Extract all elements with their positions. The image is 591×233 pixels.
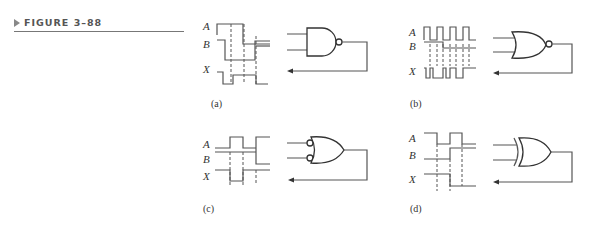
waveform-a bbox=[215, 137, 256, 152]
signal-label-b: B bbox=[203, 38, 210, 50]
xor-input-curve bbox=[514, 138, 518, 166]
signal-label-x: X bbox=[202, 170, 211, 182]
signal-label-a: A bbox=[408, 132, 416, 144]
caption-a: (a) bbox=[211, 98, 222, 110]
xor-gate-icon bbox=[519, 138, 551, 166]
caption-d: (d) bbox=[410, 203, 422, 215]
caption-b: (b) bbox=[410, 98, 422, 110]
gate-inputs bbox=[493, 145, 517, 160]
waveform-a bbox=[424, 27, 476, 40]
gate-inputs bbox=[287, 143, 307, 158]
gate-inputs bbox=[287, 34, 307, 50]
panel-a: A B X (a) bbox=[202, 20, 367, 110]
signal-label-a: A bbox=[202, 138, 210, 150]
arrow-icon bbox=[288, 178, 294, 183]
panel-b: A B X (b) bbox=[408, 26, 572, 110]
arrow-icon bbox=[493, 71, 499, 76]
signal-label-a: A bbox=[408, 26, 416, 38]
signal-label-b: B bbox=[409, 40, 416, 52]
signal-label-b: B bbox=[409, 149, 416, 161]
panel-c: A B X (c) bbox=[202, 137, 367, 215]
gate-inputs bbox=[493, 38, 516, 52]
waveform-x bbox=[217, 72, 268, 84]
nor-gate-icon bbox=[512, 32, 546, 58]
panel-d: A B X (d) bbox=[408, 132, 572, 215]
signal-label-x: X bbox=[202, 63, 211, 75]
logic-diagrams: A B X (a) A B X (b) bbox=[0, 0, 591, 233]
signal-label-x: X bbox=[408, 173, 417, 185]
or-gate-icon bbox=[311, 137, 344, 163]
signal-label-b: B bbox=[203, 153, 210, 165]
arrow-icon bbox=[287, 69, 293, 74]
waveform-b bbox=[424, 148, 476, 159]
inverter-bubble bbox=[336, 39, 342, 45]
caption-c: (c) bbox=[203, 203, 214, 215]
signal-label-x: X bbox=[408, 65, 417, 77]
waveform-b bbox=[256, 137, 270, 164]
nand-gate-icon bbox=[307, 28, 336, 56]
timing-lines bbox=[430, 44, 469, 66]
waveform-x bbox=[424, 68, 476, 78]
inverter-bubble bbox=[546, 41, 552, 47]
signal-label-a: A bbox=[202, 20, 210, 32]
arrow-icon bbox=[493, 180, 499, 185]
waveform-a bbox=[424, 133, 476, 144]
